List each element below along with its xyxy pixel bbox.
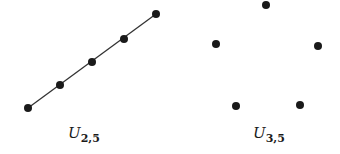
left-point-3	[88, 58, 96, 66]
label-u35: U3,5	[253, 124, 285, 145]
label-u25-sub: 2,5	[81, 132, 100, 145]
right-point-5	[296, 101, 304, 109]
left-point-5	[152, 10, 160, 18]
matroid-diagram: U2,5 U3,5	[0, 0, 340, 154]
left-point-2	[56, 81, 64, 89]
label-u25: U2,5	[68, 124, 100, 145]
label-u25-main: U	[68, 124, 81, 142]
label-u35-main: U	[253, 124, 266, 142]
left-point-1	[24, 104, 32, 112]
diagram-canvas	[0, 0, 340, 154]
label-u35-sub: 3,5	[266, 132, 285, 145]
right-point-1	[262, 1, 270, 9]
right-point-2	[212, 40, 220, 48]
right-point-4	[232, 102, 240, 110]
right-point-3	[314, 42, 322, 50]
left-point-4	[120, 35, 128, 43]
